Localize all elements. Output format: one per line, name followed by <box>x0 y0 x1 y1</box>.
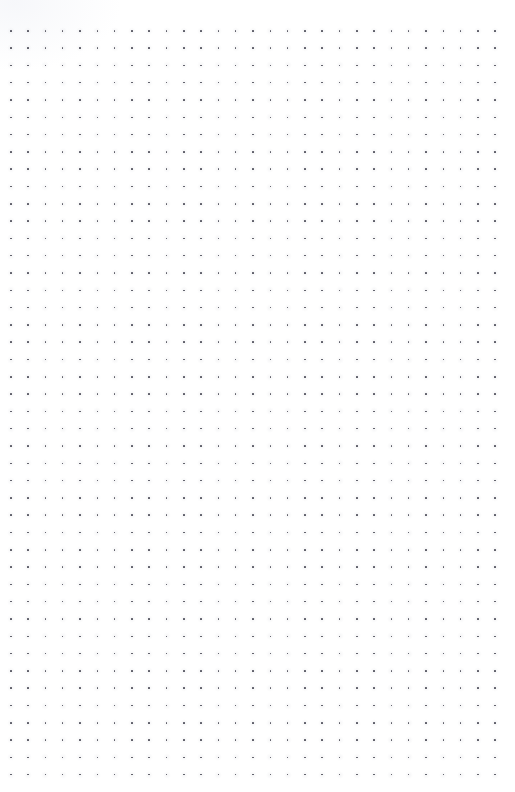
grid-dot <box>45 220 47 222</box>
grid-dot <box>304 463 306 465</box>
grid-dot <box>339 566 341 568</box>
grid-dot <box>391 445 393 447</box>
grid-dot <box>321 774 323 776</box>
grid-dot <box>373 428 375 430</box>
grid-dot <box>62 601 64 603</box>
grid-dot <box>339 601 341 603</box>
grid-dot <box>339 618 341 620</box>
grid-dot <box>494 514 496 516</box>
grid-dot <box>183 514 185 516</box>
grid-dot <box>183 618 185 620</box>
grid-dot <box>27 566 29 568</box>
grid-dot <box>373 82 375 84</box>
grid-dot <box>391 566 393 568</box>
grid-dot <box>148 653 150 655</box>
grid-dot <box>391 670 393 672</box>
grid-dot <box>148 601 150 603</box>
grid-dot <box>148 514 150 516</box>
grid-dot <box>62 151 64 153</box>
grid-dot <box>460 549 462 551</box>
grid-dot <box>460 739 462 741</box>
grid-dot <box>373 393 375 395</box>
grid-dot <box>391 168 393 170</box>
grid-dot <box>339 497 341 499</box>
grid-dot <box>10 757 12 759</box>
grid-dot <box>391 428 393 430</box>
grid-dot <box>339 203 341 205</box>
grid-dot <box>287 428 289 430</box>
grid-dot <box>218 532 220 534</box>
grid-dot <box>304 566 306 568</box>
grid-dot <box>339 584 341 586</box>
grid-dot <box>45 445 47 447</box>
grid-dot <box>373 601 375 603</box>
grid-dot <box>79 134 81 136</box>
grid-dot <box>494 618 496 620</box>
grid-dot <box>373 722 375 724</box>
grid-dot <box>356 65 358 67</box>
grid-dot <box>183 653 185 655</box>
grid-dot <box>356 653 358 655</box>
grid-dot <box>356 480 358 482</box>
grid-dot <box>339 532 341 534</box>
grid-dot <box>131 134 133 136</box>
grid-dot <box>270 272 272 274</box>
grid-dot <box>200 463 202 465</box>
grid-dot <box>373 220 375 222</box>
grid-dot <box>252 566 254 568</box>
grid-dot <box>252 411 254 413</box>
grid-dot <box>304 151 306 153</box>
grid-dot <box>408 324 410 326</box>
grid-dot <box>235 341 237 343</box>
grid-dot <box>97 359 99 361</box>
grid-dot <box>200 168 202 170</box>
grid-dot <box>79 497 81 499</box>
grid-dot <box>45 65 47 67</box>
grid-dot <box>79 757 81 759</box>
grid-dot <box>494 566 496 568</box>
grid-dot <box>270 497 272 499</box>
grid-dot <box>10 480 12 482</box>
grid-dot <box>183 463 185 465</box>
grid-dot <box>373 532 375 534</box>
grid-dot <box>131 238 133 240</box>
grid-dot <box>79 359 81 361</box>
grid-dot <box>477 687 479 689</box>
grid-dot <box>218 220 220 222</box>
grid-dot <box>131 30 133 32</box>
grid-dot <box>408 238 410 240</box>
grid-dot <box>477 584 479 586</box>
grid-dot <box>356 618 358 620</box>
grid-dot <box>79 47 81 49</box>
grid-dot <box>494 324 496 326</box>
grid-dot <box>270 514 272 516</box>
grid-dot <box>200 186 202 188</box>
grid-dot <box>304 670 306 672</box>
grid-dot <box>494 376 496 378</box>
grid-dot <box>166 653 168 655</box>
grid-dot <box>62 220 64 222</box>
grid-dot <box>131 307 133 309</box>
grid-dot <box>183 428 185 430</box>
grid-dot <box>10 220 12 222</box>
grid-dot <box>235 670 237 672</box>
grid-dot <box>494 584 496 586</box>
grid-dot <box>218 341 220 343</box>
grid-dot <box>79 99 81 101</box>
grid-dot <box>235 514 237 516</box>
grid-dot <box>235 238 237 240</box>
grid-dot <box>408 480 410 482</box>
grid-dot <box>183 722 185 724</box>
grid-dot <box>304 774 306 776</box>
grid-dot <box>391 549 393 551</box>
grid-dot <box>218 393 220 395</box>
grid-dot <box>183 636 185 638</box>
grid-dot <box>356 463 358 465</box>
grid-dot <box>148 411 150 413</box>
dot-grid-surface[interactable] <box>0 0 515 792</box>
grid-dot <box>114 82 116 84</box>
grid-dot <box>339 445 341 447</box>
grid-dot <box>79 186 81 188</box>
grid-dot <box>148 376 150 378</box>
grid-dot <box>425 532 427 534</box>
